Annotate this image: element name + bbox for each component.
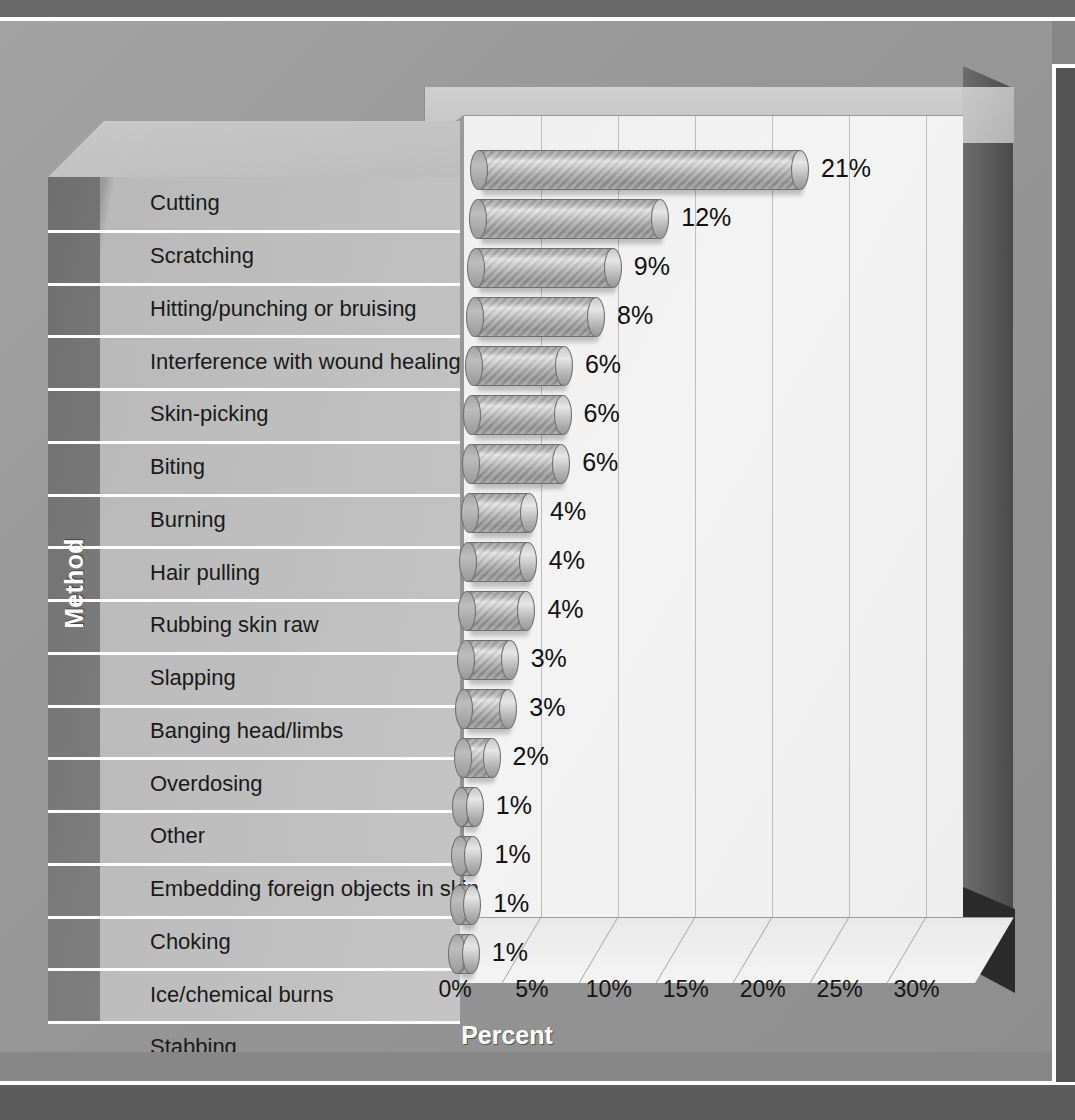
bar[interactable] [462,738,493,778]
x-tick-label: 15% [663,976,709,1003]
bar-cylinder [462,738,493,778]
bar-value-label: 4% [547,595,583,624]
x-axis-ticks: 0%5%10%15%20%25%30% [0,976,1052,1012]
bar-cylinder [466,591,528,631]
bar-cap-right [501,640,519,680]
bar-value-label: 21% [821,154,871,183]
bar-value-label: 8% [617,301,653,330]
bar-value-label: 3% [529,693,565,722]
bar-value-label: 3% [531,644,567,673]
bar-cap-left [465,346,483,386]
bar-value-label: 1% [493,889,529,918]
bar-cap-right [651,199,669,239]
bar-cap-right [466,787,484,827]
bar-cap-left [457,640,475,680]
bar-value-label: 6% [582,448,618,477]
x-tick-label: 10% [586,976,632,1003]
bar-value-label: 4% [550,497,586,526]
bar-cylinder [459,836,474,876]
bar-cap-left [469,199,487,239]
bar-cap-right [791,150,809,190]
bar[interactable] [467,542,529,582]
bar-cap-left [466,297,484,337]
bar-cap-right [499,689,517,729]
bar-cylinder [471,395,563,435]
bar[interactable] [478,150,801,190]
bar-value-label: 6% [585,350,621,379]
bar-cap-right [519,542,537,582]
bar-cap-right [587,297,605,337]
bar-cylinder [463,689,509,729]
bar-cylinder [469,493,531,533]
bar-cap-right [464,836,482,876]
bar-value-label: 9% [634,252,670,281]
bar-cap-left [458,591,476,631]
x-tick-label: 25% [817,976,863,1003]
bar[interactable] [477,199,662,239]
bar-cylinder [477,199,662,239]
bottom-rule [0,1081,1075,1085]
bar[interactable] [470,444,562,484]
x-tick-label: 20% [740,976,786,1003]
chart-figure: Method CuttingScratchingHitting/punching… [0,21,1052,1052]
x-tick-label: 5% [515,976,548,1003]
bar-cap-right [520,493,538,533]
bar-cap-left [459,542,477,582]
bar-series: 21%12%9%8%6%6%6%4%4%4%3%3%2%1%1%1%1% [0,21,1052,1052]
bar-value-label: 12% [681,203,731,232]
x-tick-label: 30% [894,976,940,1003]
bar-cylinder [475,248,613,288]
bar-cap-left [461,493,479,533]
bar-cap-right [462,934,480,974]
bar-cap-right [555,346,573,386]
bar-cap-left [467,248,485,288]
bar-value-label: 6% [584,399,620,428]
bar-cap-left [463,395,481,435]
bar-cap-left [462,444,480,484]
bar-cylinder [467,542,529,582]
x-axis-title: Percent [0,1021,1014,1050]
bar[interactable] [458,885,473,925]
bar[interactable] [469,493,531,533]
bar-cap-right [483,738,501,778]
bar-cylinder [473,346,565,386]
bar[interactable] [475,248,613,288]
bar[interactable] [459,836,474,876]
bar-value-label: 2% [513,742,549,771]
bottom-band [0,1052,1075,1081]
bar-cylinder [460,787,475,827]
bar-cap-right [517,591,535,631]
bar[interactable] [473,346,565,386]
bar-cylinder [470,444,562,484]
bar[interactable] [465,640,511,680]
bar-value-label: 1% [494,840,530,869]
bar[interactable] [474,297,597,337]
bar-cap-right [554,395,572,435]
bar[interactable] [456,934,471,974]
bar-cylinder [456,934,471,974]
bar[interactable] [460,787,475,827]
bar-value-label: 1% [496,791,532,820]
bar[interactable] [471,395,563,435]
bar-cylinder [458,885,473,925]
bar-cylinder [465,640,511,680]
bar-cylinder [474,297,597,337]
bar-cylinder [478,150,801,190]
bar[interactable] [466,591,528,631]
bar-cap-left [470,150,488,190]
bar-cap-right [552,444,570,484]
bar[interactable] [463,689,509,729]
x-tick-label: 0% [438,976,471,1003]
bar-value-label: 1% [492,938,528,967]
bar-cap-right [604,248,622,288]
bar-cap-right [463,885,481,925]
bar-cap-left [455,689,473,729]
bar-cap-left [454,738,472,778]
bar-value-label: 4% [549,546,585,575]
right-band [1056,68,1075,1082]
